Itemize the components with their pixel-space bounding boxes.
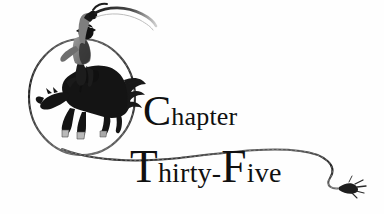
number-initial-f: F: [221, 142, 246, 192]
number-remainder-five: ive: [247, 157, 282, 188]
chapter-word: Chapter: [143, 96, 237, 130]
chapter-heading-page: Chapter Thirty-Five: [0, 0, 384, 214]
chapter-remainder: hapter: [171, 102, 237, 131]
number-remainder-thirty: hirty-: [158, 157, 221, 188]
chapter-initial-c: C: [143, 87, 171, 134]
number-initial-t: T: [130, 142, 158, 192]
chapter-number-word: Thirty-Five: [130, 152, 282, 187]
